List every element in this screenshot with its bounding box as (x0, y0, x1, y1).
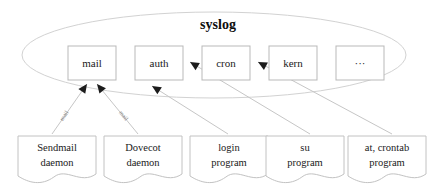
source-document-dovecot[interactable]: Dovecotdaemon (104, 136, 182, 183)
edge-sendmail-to-mail (52, 84, 87, 134)
facility-box-kern[interactable]: kern (269, 46, 317, 80)
arrowhead-login-to-auth (150, 82, 162, 94)
arrowhead-crontab-to-cron (256, 58, 268, 70)
facility-label-mail: mail (82, 57, 102, 69)
source-document-su[interactable]: suprogram (266, 136, 344, 183)
source-label-line1-login: login (218, 142, 240, 153)
source-document-login[interactable]: loginprogram (190, 136, 268, 183)
facility-box-ellipsis[interactable]: ··· (336, 46, 384, 80)
facility-box-cron[interactable]: cron (202, 46, 250, 80)
arrowhead-su-to-auth (188, 58, 200, 70)
edge-dovecot-to-mail (97, 84, 138, 134)
source-document-sendmail[interactable]: Sendmaildaemon (18, 136, 96, 183)
facility-box-mail[interactable]: mail (68, 46, 116, 80)
edge-label-dovecot-to-mail: mail (118, 110, 130, 122)
diagram-canvas: syslog mailauthcronkern··· Sendmaildaemo… (0, 0, 434, 193)
source-label-line1-su: su (300, 142, 310, 153)
source-label-line1-crontab: at, crontab (365, 142, 409, 153)
arrowhead-dovecot-to-mail (94, 81, 106, 93)
source-label-line1-dovecot: Dovecot (125, 142, 161, 153)
source-label-line2-dovecot: daemon (126, 157, 160, 168)
source-label-line1-sendmail: Sendmail (37, 142, 77, 153)
source-label-line2-su: program (287, 157, 323, 168)
syslog-title: syslog (200, 17, 236, 32)
facility-label-kern: kern (283, 57, 303, 69)
source-label-line2-sendmail: daemon (40, 157, 74, 168)
facility-box-auth[interactable]: auth (135, 46, 183, 80)
facility-label-ellipsis: ··· (355, 57, 366, 69)
source-documents-layer: SendmaildaemonDovecotdaemonloginprograms… (18, 136, 426, 183)
edge-login-to-auth (152, 86, 228, 134)
facility-label-cron: cron (216, 57, 236, 69)
source-label-line2-crontab: program (369, 157, 405, 168)
source-label-line2-login: program (211, 157, 247, 168)
source-document-crontab[interactable]: at, crontabprogram (348, 136, 426, 183)
syslog-facility-diagram: syslog mailauthcronkern··· Sendmaildaemo… (0, 0, 434, 193)
facility-label-auth: auth (150, 57, 169, 69)
facility-boxes-layer: mailauthcronkern··· (68, 46, 384, 80)
